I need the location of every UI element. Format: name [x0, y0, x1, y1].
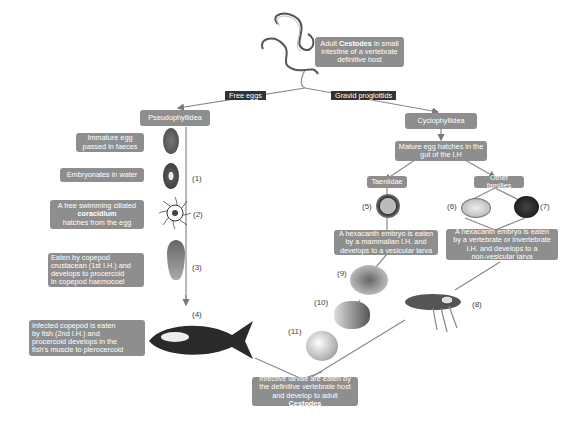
coenurus-image	[334, 301, 370, 329]
free-eggs-label: Free eggs	[225, 91, 266, 100]
non-vesicular-larva-box: A hexacanth embryo is eaten by a vertebr…	[446, 229, 558, 260]
embryonates-box: Embryonates in water	[60, 168, 144, 182]
fish-image	[147, 315, 255, 363]
cestodes-term: Cestodes	[289, 399, 322, 408]
gravid-proglottids-label: Gravid proglottids	[331, 91, 396, 100]
box-text: passed in faeces	[83, 143, 138, 151]
taeniidae-box: Taeniidae	[367, 176, 407, 188]
procercoid-box: Eaten by copepod crustacean (1st I.H.) a…	[48, 253, 144, 287]
stage-number-3: (3)	[192, 263, 202, 272]
cestode-life-cycle-diagram: Adult Cestodes in small intestine of a v…	[0, 0, 584, 421]
stage-number-10: (10)	[314, 298, 328, 307]
stage-number-6: (6)	[447, 202, 457, 211]
other-egg-image-6	[461, 198, 491, 218]
stage-number-7: (7)	[540, 202, 550, 211]
box-text: hatches from the egg	[63, 219, 132, 227]
stage-number-9: (9)	[337, 269, 347, 278]
immature-egg-image	[163, 128, 179, 154]
immature-egg-box: Immature egg passed in faeces	[76, 133, 144, 152]
cyclophyllidea-box: Cyclophyllidea	[405, 113, 477, 129]
stage-number-2: (2)	[193, 210, 203, 219]
stage-number-8: (8)	[472, 300, 482, 309]
stage-number-11: (11)	[288, 327, 302, 336]
coracidium-box: A free swimming ciliated coracidium hatc…	[50, 200, 144, 229]
mature-egg-hatches-box: Mature egg hatches in the gut of the I.H	[395, 141, 487, 161]
box-text: fish's muscle to plerocercoid	[32, 346, 123, 354]
other-egg-image-7	[514, 196, 539, 218]
stage-number-1: (1)	[192, 174, 202, 183]
box-text: in copepod haemocoel	[51, 278, 124, 286]
pseudophyllidea-box: Pseudophyllidea	[140, 110, 210, 126]
infective-larvae-box: Infective larvae are eaten by the defini…	[252, 377, 358, 406]
hydatid-cyst-image	[306, 331, 338, 361]
cysticercus-image	[350, 265, 388, 295]
adult-cestodes-box: Adult Cestodes in small intestine of a v…	[315, 37, 404, 67]
coracidium-image	[157, 195, 193, 231]
box-text: develops to a vesicular larva	[340, 247, 432, 255]
box-text: definitive host	[337, 56, 382, 64]
other-families-box: Other families	[474, 176, 524, 188]
flea-image	[403, 290, 469, 334]
taeniid-egg-image	[376, 194, 400, 218]
stage-number-5: (5)	[362, 202, 372, 211]
plerocercoid-box: Infected copepod is eaten by fish (2nd I…	[29, 320, 145, 356]
box-text: non-vesicular larva	[471, 253, 532, 261]
embryonated-egg-image	[163, 163, 179, 189]
vesicular-larva-box: A hexacanth embryo is eaten by a mammali…	[334, 230, 438, 255]
box-text: gut of the I.H	[420, 151, 462, 159]
box-text: Embryonates in water	[67, 171, 138, 179]
